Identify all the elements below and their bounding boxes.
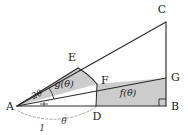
vertex-label-A: A (5, 100, 15, 113)
right-angle-tick-A (40, 102, 48, 106)
geometry-figure: A B C D E F G f(θ) g(θ) 2θ θ 1 (0, 0, 188, 135)
vertex-label-C: C (158, 3, 166, 16)
vertex-label-D: D (93, 110, 102, 123)
vertex-label-F: F (101, 74, 109, 87)
angle-theta-label: θ (61, 116, 67, 126)
geometry-canvas: A B C D E F G f(θ) g(θ) 2θ θ 1 (0, 0, 188, 135)
vertex-label-G: G (171, 71, 180, 84)
vertex-label-E: E (68, 51, 76, 64)
unit-radius-label: 1 (39, 123, 45, 133)
g-region-label: g(θ) (54, 78, 74, 89)
unit-arc-dashed (18, 107, 96, 119)
f-region-label: f(θ) (119, 87, 137, 98)
vertex-label-B: B (171, 100, 179, 113)
